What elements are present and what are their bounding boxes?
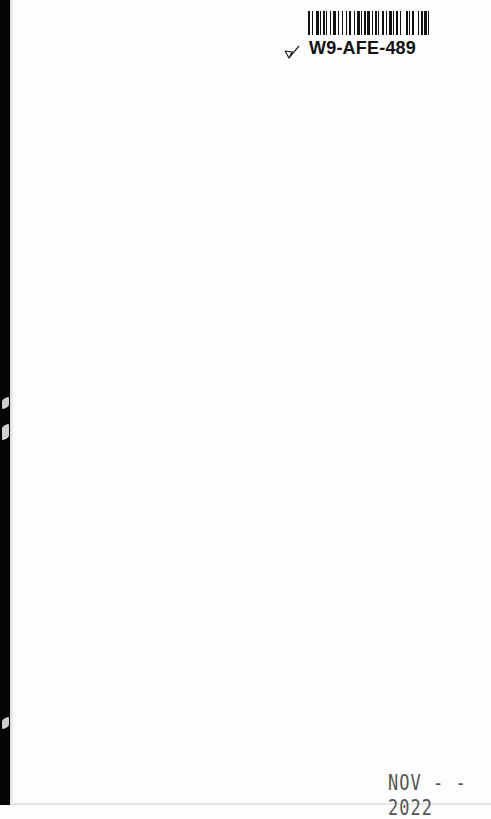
barcode-id: W9-AFE-489 — [309, 38, 416, 59]
binding-edge — [0, 0, 10, 805]
binding-mark — [2, 716, 9, 729]
barcode — [308, 11, 442, 35]
checkmark-icon — [283, 44, 301, 60]
binding-mark — [2, 423, 9, 440]
binding-shadow — [10, 0, 14, 805]
date-stamp: NOV - - 2022 — [388, 770, 491, 819]
binding-mark — [2, 396, 9, 409]
